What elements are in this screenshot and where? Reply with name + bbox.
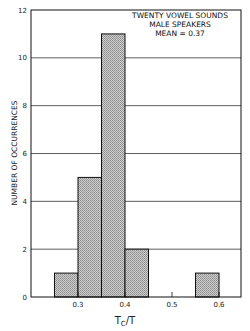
legend-annotation: TWENTY VOWEL SOUNDS MALE SPEAKERS MEAN =… [131,11,228,38]
y-tick-label: 0 [23,294,27,302]
histogram-bar [125,249,149,297]
x-tick-label: 0.6 [213,301,225,309]
histogram-bar [55,273,79,297]
svg-text:TC/T: TC/T [114,315,136,328]
y-tick-label: 2 [23,246,27,254]
histogram-chart: 024681012 0.30.40.50.6 TWENTY VOWEL SOUN… [0,0,250,331]
y-tick-label: 10 [18,54,27,62]
gridlines [31,58,241,249]
y-axis-ticks: 024681012 [18,7,27,302]
histogram-bar [78,177,102,297]
x-label-rest: /T [126,315,136,326]
histogram-bars [55,34,220,297]
x-axis-label: TC/T [114,315,136,328]
annotation-line-1: TWENTY VOWEL SOUNDS [131,11,228,20]
y-tick-label: 12 [18,7,27,15]
annotation-line-2: MALE SPEAKERS [149,20,211,29]
histogram-bar [102,34,126,297]
y-tick-label: 4 [23,198,28,206]
x-tick-label: 0.4 [119,301,131,309]
x-tick-label: 0.5 [166,301,177,309]
y-tick-label: 6 [23,150,28,158]
x-tick-label: 0.3 [72,301,83,309]
y-axis-label: NUMBER OF OCCURRENCES [10,100,19,205]
histogram-bar [196,273,220,297]
y-tick-label: 8 [23,102,27,110]
annotation-line-3: MEAN = 0.37 [155,29,205,38]
